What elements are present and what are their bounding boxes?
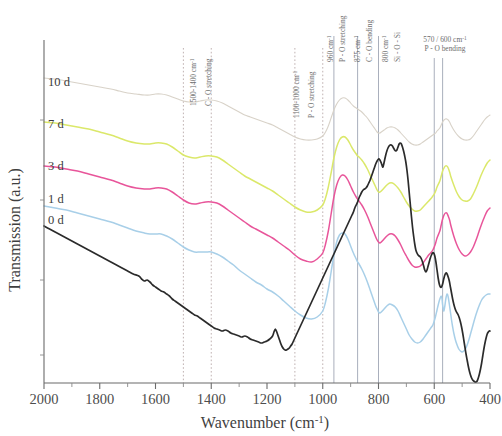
x-tick-label-2000: 2000	[30, 391, 59, 407]
annotation-assignment: C - O bending	[365, 20, 374, 62]
ftir-spectrum-figure: 200018001600140012001000800600400 1500-1…	[0, 0, 502, 436]
peak-annotations: 1500-1400 cm-1C - O stretching1100-1000 …	[189, 15, 467, 118]
annotation-wavenumber: 570 / 600 cm-1	[423, 35, 467, 44]
series-label-0-d: 0 d	[48, 213, 64, 227]
series-labels: 10 d7 d3 d1 d0 d	[48, 75, 71, 227]
curve-0-d	[44, 143, 490, 382]
x-tick-label-1800: 1800	[85, 391, 114, 407]
series-label-10-d: 10 d	[48, 75, 71, 89]
series-label-1-d: 1 d	[48, 192, 64, 206]
x-axis-title: Wavenumber (cm-1)	[201, 413, 329, 432]
series-label-3-d: 3 d	[48, 159, 64, 173]
curve-7-d	[44, 122, 490, 212]
annotation-wavenumber: 800 cm-1	[381, 35, 390, 62]
annotation-wavenumber: 875 cm-1	[353, 35, 362, 62]
annotation-p-o-stretching-960: 960 cm-1P - O stretching	[326, 15, 347, 62]
x-tick-label-1600: 1600	[141, 391, 170, 407]
annotation-c-o-bending-875: 875 cm-1C - O bending	[353, 20, 374, 62]
annotation-assignment: P - O stretching	[307, 71, 316, 118]
annotation-c-o-stretching: 1500-1400 cm-1C - O stretching	[189, 58, 213, 106]
curve-3-d	[44, 166, 490, 267]
plot-axes	[40, 40, 490, 389]
y-axis-title: Transmission (a.u.)	[6, 168, 24, 291]
spectral-curves	[44, 78, 490, 382]
axis-tick-labels: 200018001600140012001000800600400	[30, 391, 501, 407]
x-tick-label-1000: 1000	[308, 391, 337, 407]
x-tick-label-800: 800	[368, 391, 390, 407]
annotation-assignment: Si - O - Si	[393, 32, 402, 62]
spectrum-plot: 200018001600140012001000800600400 1500-1…	[0, 0, 502, 436]
x-tick-label-1400: 1400	[197, 391, 226, 407]
annotation-p-o-bending-570-600: 570 / 600 cm-1P - O bending	[423, 35, 467, 53]
annotation-wavenumber: 1100-1000 cm-1	[292, 71, 301, 118]
annotation-assignment: C - O stretching	[204, 58, 213, 106]
annotation-p-o-stretching-1100: 1100-1000 cm-1P - O stretching	[292, 71, 316, 118]
annotation-assignment: P - O bending	[425, 44, 466, 53]
annotation-assignment: P - O stretching	[338, 15, 347, 62]
annotation-wavenumber: 1500-1400 cm-1	[189, 58, 198, 106]
x-tick-label-1200: 1200	[253, 391, 282, 407]
x-tick-label-600: 600	[423, 391, 445, 407]
annotation-si-o-si-800: 800 cm-1Si - O - Si	[381, 32, 402, 62]
x-tick-label-400: 400	[479, 391, 501, 407]
series-label-7-d: 7 d	[48, 117, 64, 131]
curve-1-d	[44, 206, 490, 352]
